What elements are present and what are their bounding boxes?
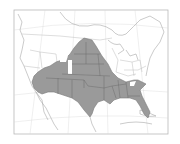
range-map [0, 0, 180, 144]
